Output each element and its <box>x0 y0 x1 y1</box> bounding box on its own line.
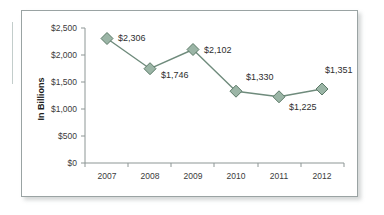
chart-figure: $2,500 $2,000 $1,500 $1,000 $500 $0 In B… <box>0 0 384 215</box>
x-axis <box>85 163 344 167</box>
x-tick-label-2011: 2011 <box>270 171 289 181</box>
data-point-2012 <box>316 83 328 95</box>
x-tick-label-2008: 2008 <box>141 171 160 181</box>
data-label-2012: $1,351 <box>325 65 353 75</box>
data-point-2011 <box>273 91 285 103</box>
x-tick-label-2010: 2010 <box>227 171 246 181</box>
x-tick-label-2009: 2009 <box>184 171 203 181</box>
plot-area: $2,500 $2,000 $1,500 $1,000 $500 $0 In B… <box>22 11 359 198</box>
data-point-2007 <box>101 33 113 45</box>
chart-svg: $2,500 $2,000 $1,500 $1,000 $500 $0 In B… <box>22 11 359 198</box>
x-tick-label-2007: 2007 <box>98 171 117 181</box>
x-tick-label-2012: 2012 <box>313 171 332 181</box>
data-label-2010: $1,330 <box>246 72 274 82</box>
chart-panel: $2,500 $2,000 $1,500 $1,000 $500 $0 In B… <box>21 10 358 197</box>
edge-artifact <box>12 22 13 84</box>
y-axis-title: In Billions <box>36 77 46 120</box>
series-markers <box>101 33 328 103</box>
data-point-2008 <box>144 63 156 75</box>
y-tick-label-500: $500 <box>58 131 77 141</box>
y-tick-label-2000: $2,000 <box>51 50 77 60</box>
y-axis <box>81 28 85 163</box>
data-label-2008: $1,746 <box>161 70 189 80</box>
y-tick-label-1500: $1,500 <box>51 77 77 87</box>
y-tick-label-2500: $2,500 <box>51 23 77 33</box>
data-label-2007: $2,306 <box>118 33 146 43</box>
data-label-2011: $1,225 <box>289 102 317 112</box>
data-label-2009: $2,102 <box>204 45 232 55</box>
y-tick-label-0: $0 <box>68 158 78 168</box>
y-tick-label-1000: $1,000 <box>51 104 77 114</box>
